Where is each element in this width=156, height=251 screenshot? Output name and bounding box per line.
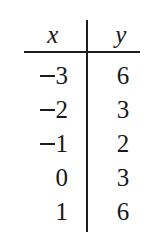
cell-y: 2 bbox=[94, 127, 152, 161]
cell-y: 3 bbox=[94, 161, 152, 195]
cell-y: 3 bbox=[94, 93, 152, 127]
cell-x: 3 bbox=[6, 59, 68, 93]
minus-sign-icon bbox=[40, 127, 56, 161]
cell-y: 6 bbox=[94, 195, 152, 229]
table-row: 1 2 bbox=[0, 127, 156, 161]
minus-sign-icon bbox=[40, 93, 56, 127]
table-row: 0 3 bbox=[0, 161, 156, 195]
cell-x: 0 bbox=[6, 161, 68, 195]
header-divider-rule bbox=[24, 51, 140, 53]
minus-sign-icon bbox=[40, 59, 56, 93]
column-header-x: x bbox=[24, 20, 82, 50]
cell-y: 6 bbox=[94, 59, 152, 93]
value-table-figure: x y 3 6 2 3 1 2 0 3 1 6 bbox=[0, 0, 156, 251]
cell-x: 1 bbox=[6, 127, 68, 161]
cell-x: 2 bbox=[6, 93, 68, 127]
table-row: 3 6 bbox=[0, 59, 156, 93]
table-row: 2 3 bbox=[0, 93, 156, 127]
column-header-y: y bbox=[92, 20, 150, 50]
table-row: 1 6 bbox=[0, 195, 156, 229]
cell-x: 1 bbox=[6, 195, 68, 229]
